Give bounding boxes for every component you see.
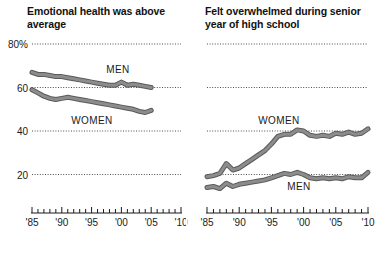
chart-plot-area-right: '85'90'95'00'05'10WOMENMEN [187, 0, 375, 255]
series-label-women: WOMEN [71, 115, 112, 126]
x-axis-tick-label: '00 [297, 217, 310, 228]
series-label-women: WOMEN [258, 115, 299, 126]
x-axis-tick-label: '95 [265, 217, 278, 228]
y-axis-tick-label: 80% [8, 39, 28, 50]
series-label-men: MEN [287, 181, 310, 192]
y-axis-tick-label: 20 [17, 170, 29, 181]
y-axis-tick-label: 60 [17, 83, 29, 94]
x-axis-tick-label: '05 [145, 217, 158, 228]
x-axis-tick-label: '85 [200, 217, 213, 228]
x-axis-tick-label: '90 [233, 217, 246, 228]
x-axis-tick-label: '85 [25, 217, 38, 228]
chart-panel-felt-overwhelmed: Felt overwhelmed during senior year of h… [187, 0, 375, 255]
x-axis-tick-label: '10 [361, 217, 374, 228]
series-line-women [32, 90, 151, 113]
chart-plot-area-left: 80%604020'85'90'95'00'05'10MENWOMEN [0, 0, 188, 255]
x-axis-tick-label: '95 [85, 217, 98, 228]
x-axis-tick-label: '90 [55, 217, 68, 228]
x-axis-tick-label: '00 [115, 217, 128, 228]
y-axis-tick-label: 40 [17, 126, 29, 137]
x-axis-tick-label: '05 [329, 217, 342, 228]
series-label-men: MEN [106, 64, 129, 75]
chart-panel-emotional-health: Emotional health was above average 80%60… [0, 0, 188, 255]
panel-divider [186, 0, 187, 255]
